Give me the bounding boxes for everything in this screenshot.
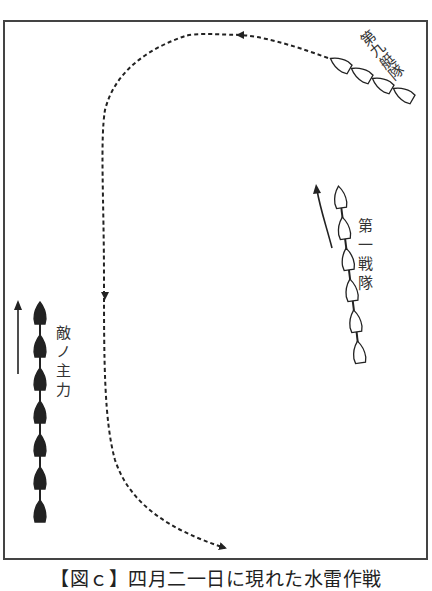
enemy-main-label: 敵ノ主力 (54, 325, 69, 401)
ship-icon (336, 216, 351, 239)
ship-icon (340, 247, 355, 270)
ship-icon (390, 83, 415, 104)
enemy-ship-icon (34, 335, 46, 357)
enemy-ship-icon (34, 434, 46, 456)
enemy-ship-icon (34, 368, 46, 390)
enemy-main-formation (34, 302, 46, 522)
figure-caption: 【図ｃ】四月二一日に現れた水雷作戦 (0, 564, 432, 591)
arrow-head-icon (14, 300, 22, 310)
enemy-ship-icon (34, 467, 46, 489)
ninth-squadron-formation (327, 53, 415, 104)
torpedo-track-dashed-path (102, 34, 328, 548)
track-arrow-icon (236, 31, 244, 39)
first-fleet-label: 第一戦隊 (356, 218, 371, 294)
arrow-head-icon (313, 184, 321, 194)
ship-icon (327, 53, 352, 74)
track-arrow-icon (101, 292, 109, 300)
first-fleet-heading-arrow (317, 190, 332, 248)
ship-icon (348, 309, 363, 332)
ship-icon (333, 185, 348, 208)
enemy-ship-icon (34, 500, 46, 522)
enemy-ship-icon (34, 401, 46, 423)
ship-icon (348, 63, 373, 84)
ship-icon (352, 340, 367, 363)
enemy-ship-icon (34, 302, 46, 324)
